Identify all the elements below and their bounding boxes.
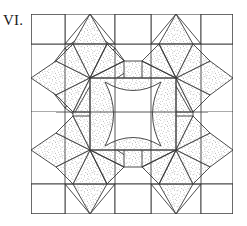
- corner-patch-tr: [201, 14, 233, 44]
- quilt-figure: VI.: [0, 0, 247, 226]
- corner-patch-tl: [31, 14, 65, 44]
- corner-patch-br: [201, 184, 233, 214]
- corner-patch-bl: [31, 184, 65, 214]
- center-medallion: [105, 82, 161, 146]
- edge-patch-bottom: [115, 184, 151, 214]
- edge-patch-top: [115, 14, 151, 44]
- quilt-block-diagram: [0, 0, 247, 226]
- edge-patch-right: [208, 112, 233, 116]
- edge-patch-left: [31, 112, 56, 116]
